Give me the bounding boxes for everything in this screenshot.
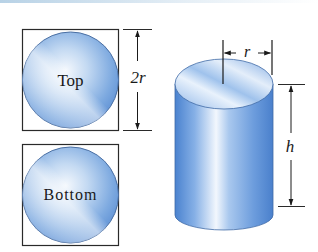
bottom-face: Bottom	[23, 145, 119, 246]
diameter-label: 2r	[130, 68, 146, 87]
height-label: h	[286, 137, 295, 156]
top-face-label: Top	[57, 71, 83, 90]
diameter-dimension: 2r	[123, 30, 152, 131]
bottom-face-label: Bottom	[43, 186, 97, 203]
cylinder	[175, 40, 273, 230]
cylinder-top-cap	[175, 59, 273, 109]
height-dimension: h	[278, 85, 305, 207]
radius-dimension: r	[225, 43, 271, 60]
cylinder-diagram: Top 2r Bottom r h	[0, 0, 318, 252]
radius-label: r	[244, 43, 251, 60]
top-face: Top	[23, 30, 119, 131]
